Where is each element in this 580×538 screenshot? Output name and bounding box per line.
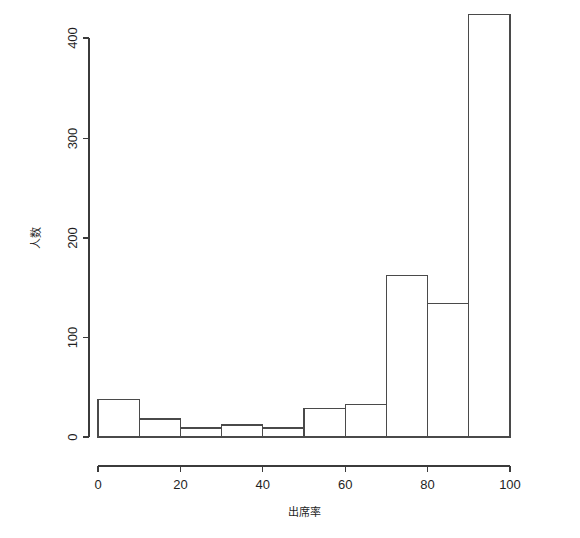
histogram-bar	[139, 419, 180, 437]
x-tick-label-0: 0	[94, 477, 101, 492]
x-tick-label-20: 20	[173, 477, 187, 492]
histogram-bar	[263, 428, 304, 437]
x-axis-title: 出席率	[288, 505, 321, 518]
y-tick-label-0: 0	[65, 433, 80, 440]
x-tick-label-100: 100	[499, 477, 521, 492]
histogram-svg: 0 100 200 300 400 人数 0 20 40 60 80 100 出…	[0, 0, 580, 538]
histogram-bar	[180, 428, 221, 437]
histogram-bar	[345, 404, 386, 437]
y-tick-label-100: 100	[65, 327, 80, 349]
histogram-bar	[428, 303, 469, 437]
histogram-bar	[98, 399, 139, 437]
histogram-plot-area: 0 100 200 300 400 人数 0 20 40 60 80 100 出…	[0, 0, 580, 538]
x-tick-label-40: 40	[256, 477, 270, 492]
y-axis-title: 人数	[30, 227, 42, 249]
y-tick-label-200: 200	[65, 227, 80, 249]
y-tick-label-300: 300	[65, 128, 80, 150]
histogram-bar	[386, 275, 427, 437]
x-tick-label-60: 60	[338, 477, 352, 492]
y-tick-label-400: 400	[65, 27, 80, 49]
x-tick-label-80: 80	[420, 477, 434, 492]
histogram-bar	[304, 408, 345, 437]
histogram-bar	[469, 14, 510, 437]
histogram-bar	[222, 425, 263, 437]
